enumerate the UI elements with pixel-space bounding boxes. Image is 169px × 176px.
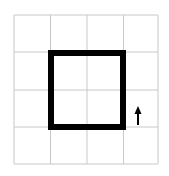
grid [14, 15, 158, 164]
arrow-up-icon [135, 106, 142, 125]
diagram-canvas [0, 0, 169, 176]
